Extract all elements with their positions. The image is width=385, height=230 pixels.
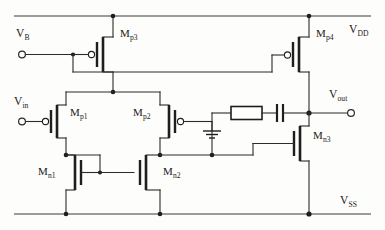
mp4-gate-bubble-icon — [284, 52, 290, 58]
vout-terminal-icon[interactable] — [348, 110, 355, 117]
vout-label: Vout — [329, 89, 347, 103]
mp3-label: Mp3 — [120, 28, 138, 42]
mp4-vdd-junction-dot — [307, 14, 312, 19]
vss-label: VSS — [340, 195, 357, 209]
mp4-label: Mp4 — [316, 28, 334, 42]
mn3-vss-junction-dot — [306, 211, 311, 216]
vb-label: VB — [16, 28, 30, 42]
mp3-gate-bubble-icon — [88, 51, 94, 57]
mp2-label: Mp2 — [133, 107, 151, 121]
vin-terminal-icon[interactable] — [19, 118, 26, 125]
mn1-vss-junction-dot — [64, 212, 69, 217]
mn2-label: Mn2 — [163, 166, 181, 180]
mp1-gate-bubble-icon — [42, 118, 48, 124]
circuit-diagram-canvas: VB Mp3 Mp4 VDD Vin Mp1 Mp2 Vout Mn3 Mn1 … — [0, 0, 385, 230]
compensation-resistor — [231, 107, 262, 120]
mn1-label: Mn1 — [38, 166, 56, 180]
vdd-label: VDD — [349, 24, 369, 38]
vin-label: Vin — [14, 96, 29, 110]
mp3-vdd-junction-dot — [111, 14, 116, 19]
mn2-vss-junction-dot — [158, 212, 163, 217]
mn3-label: Mn3 — [313, 130, 331, 144]
vb-terminal-icon[interactable] — [19, 51, 26, 58]
mp1-label: Mp1 — [70, 107, 88, 121]
mp2-gate-bubble-icon — [177, 118, 183, 124]
